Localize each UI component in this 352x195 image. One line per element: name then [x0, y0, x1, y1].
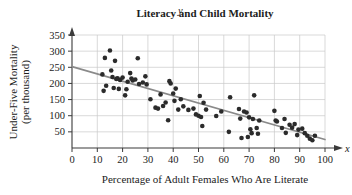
x-tick-label: 50: [193, 154, 204, 165]
y-tick-label: 350: [49, 30, 65, 41]
x-tick-label: 100: [317, 154, 333, 165]
data-point: [295, 133, 300, 138]
data-point: [113, 59, 118, 64]
data-point: [124, 87, 129, 92]
data-point: [280, 126, 285, 131]
x-tick-label: 10: [92, 154, 103, 165]
data-point: [103, 56, 108, 61]
data-point: [181, 104, 186, 109]
data-point: [133, 77, 138, 82]
data-point: [300, 126, 305, 131]
data-point: [163, 100, 168, 105]
data-point: [256, 131, 261, 136]
data-point: [123, 93, 128, 98]
data-point: [238, 116, 243, 121]
data-point: [148, 97, 153, 102]
data-point: [227, 130, 232, 135]
data-point: [272, 109, 277, 114]
data-point: [239, 136, 244, 141]
data-point: [228, 95, 233, 100]
x-tick-label: 30: [143, 154, 154, 165]
x-axis-symbol-label: x: [344, 143, 350, 154]
data-point: [171, 91, 176, 96]
y-tick-label: 50: [55, 126, 66, 137]
x-tick-label: 70: [244, 154, 255, 165]
y-tick-label: 100: [49, 110, 65, 121]
chart-page: 0102030405060708090100501001502002503003…: [0, 0, 352, 195]
data-point: [135, 56, 140, 61]
x-tick-label: 40: [168, 154, 179, 165]
y-tick-label: 250: [49, 62, 65, 73]
data-point: [172, 99, 177, 104]
data-point: [257, 118, 262, 123]
data-point: [237, 107, 242, 112]
data-point: [178, 97, 183, 102]
x-axis-arrow-icon: [334, 145, 343, 151]
data-point: [101, 89, 106, 94]
data-point: [310, 138, 315, 143]
y-axis-title-line1: Under-Five Mortality: [7, 44, 19, 139]
tick-labels: 0102030405060708090100501001502002503003…: [49, 30, 333, 165]
data-point: [214, 114, 219, 119]
x-axis-title: Percentage of Adult Females Who Are Lite…: [102, 173, 308, 185]
data-point: [104, 83, 109, 88]
data-point: [292, 122, 297, 127]
data-point: [282, 117, 287, 122]
data-point: [156, 106, 161, 111]
chart-title: Literacy and Child Mortality: [136, 7, 274, 19]
data-point: [283, 131, 288, 136]
data-point: [109, 68, 114, 73]
data-point: [168, 81, 173, 86]
x-tick-label: 80: [269, 154, 280, 165]
x-tick-label: 90: [294, 154, 305, 165]
data-point: [246, 135, 251, 140]
x-tick-label: 0: [69, 154, 74, 165]
data-point: [244, 110, 249, 115]
y-tick-label: 150: [49, 94, 65, 105]
x-tick-label: 60: [219, 154, 230, 165]
data-point: [191, 106, 196, 111]
data-point: [125, 80, 130, 85]
data-point: [313, 133, 318, 138]
data-point: [197, 94, 202, 99]
y-tick-label: 200: [49, 78, 65, 89]
y-tick-label: 300: [49, 46, 65, 57]
data-point: [204, 107, 209, 112]
data-point: [275, 119, 280, 124]
data-point: [158, 92, 163, 97]
data-point: [254, 126, 259, 131]
data-point: [200, 124, 205, 129]
data-point: [117, 87, 122, 92]
data-point: [219, 109, 224, 114]
data-point: [128, 71, 133, 76]
data-point: [201, 101, 206, 106]
data-point: [144, 82, 149, 87]
x-tick-label: 20: [117, 154, 128, 165]
data-point: [120, 75, 125, 80]
data-point: [249, 131, 254, 136]
y-axis-title-line2: (per thousand): [19, 60, 32, 124]
data-point: [108, 48, 113, 53]
data-point: [166, 118, 171, 123]
data-point: [199, 115, 204, 120]
data-point: [252, 93, 257, 98]
data-point: [186, 108, 191, 113]
data-point: [176, 107, 181, 112]
data-point: [100, 72, 105, 77]
literacy-mortality-scatter-chart: 0102030405060708090100501001502002503003…: [0, 0, 352, 195]
y-axis-symbol-label: y: [177, 5, 183, 16]
data-point: [143, 74, 148, 79]
y-axis-arrow-icon: [69, 27, 75, 36]
data-point: [251, 117, 256, 122]
data-point: [111, 86, 116, 91]
data-point: [173, 86, 178, 91]
